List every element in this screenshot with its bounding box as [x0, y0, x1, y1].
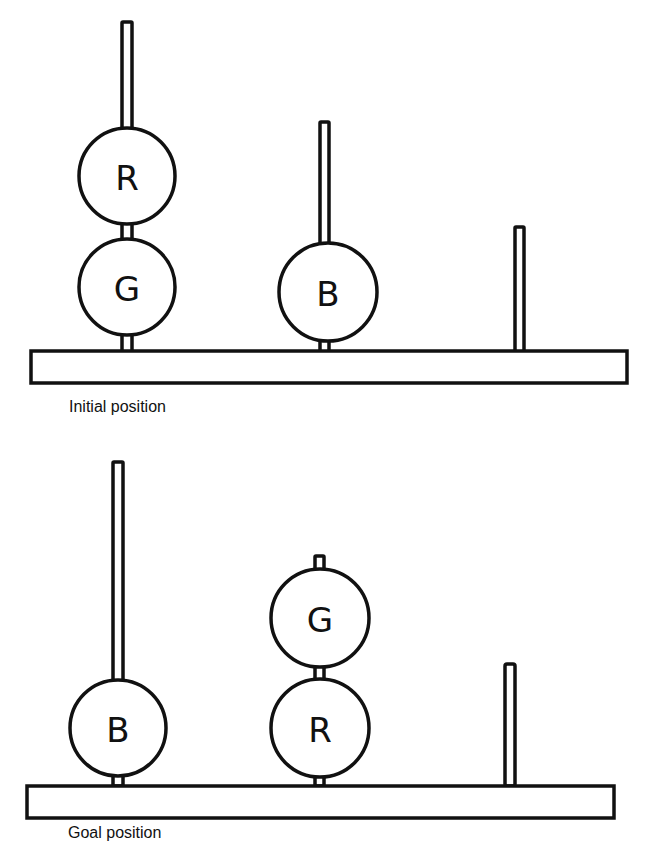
svg-text:R: R	[115, 158, 139, 198]
initial-base-board	[31, 351, 627, 383]
goal-position-caption: Goal position	[68, 824, 161, 842]
initial-ball-r: R	[79, 128, 175, 224]
svg-text:B: B	[106, 710, 129, 750]
goal-peg-3	[505, 664, 515, 786]
initial-peg-3	[515, 227, 524, 352]
initial-position-caption: Initial position	[69, 398, 166, 416]
svg-text:R: R	[308, 710, 332, 750]
initial-ball-b: B	[279, 243, 377, 341]
initial-position-panel: G R B	[31, 22, 627, 383]
svg-text:G: G	[114, 269, 140, 309]
svg-text:G: G	[307, 600, 333, 640]
goal-base-board	[27, 786, 614, 818]
goal-ball-g: G	[271, 569, 369, 667]
goal-position-panel: B R G	[27, 462, 614, 818]
puzzle-diagram: G R B B R G	[0, 0, 654, 860]
goal-ball-r: R	[271, 679, 369, 777]
goal-ball-b: B	[70, 680, 166, 776]
svg-text:B: B	[316, 274, 339, 314]
initial-ball-g: G	[79, 239, 175, 335]
